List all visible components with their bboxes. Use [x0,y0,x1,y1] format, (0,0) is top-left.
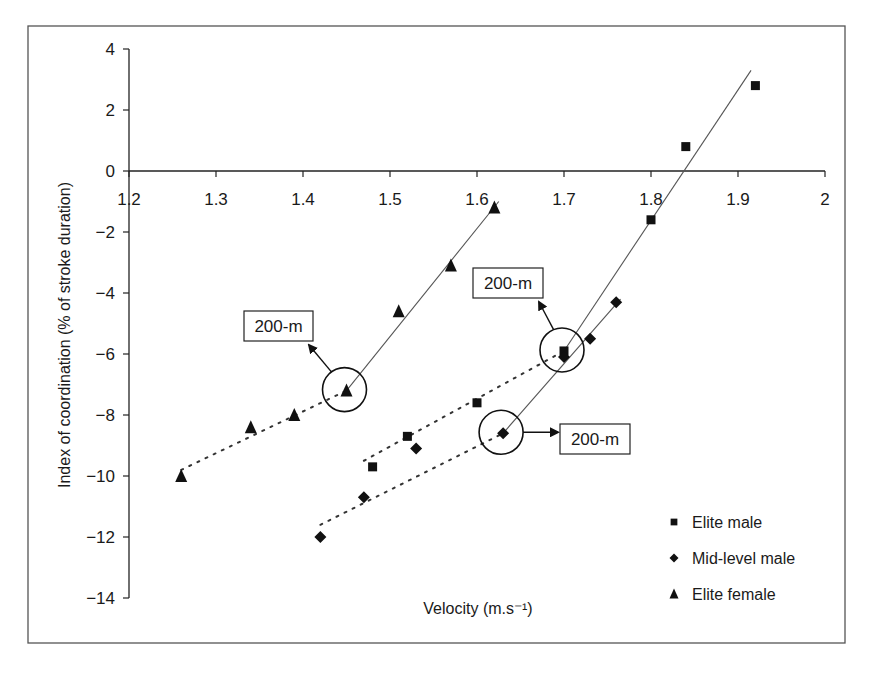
trend-line-dotted [181,391,346,470]
x-tick-label: 1.8 [639,190,663,209]
y-axis-title: Index of coordination (% of stroke durat… [56,182,73,488]
annotations: 200-m200-m200-m [244,268,630,454]
x-tick-label: 1.3 [204,190,228,209]
x-tick-label: 1.2 [117,190,141,209]
diamond-marker [410,443,422,455]
legend-label: Elite male [692,514,762,531]
square-marker [681,142,690,151]
y-tick-label: −14 [86,589,115,608]
triangle-marker [393,304,405,317]
y-tick-label: −8 [96,406,115,425]
diamond-marker [314,531,326,543]
trend-line-dotted [364,351,564,461]
diamond-marker [358,491,370,503]
triangle-marker [288,408,300,421]
y-tick-label: −4 [96,284,115,303]
annotation-arrow [539,302,554,330]
triangle-marker [175,469,187,482]
y-tick-label: −2 [96,223,115,242]
legend-triangle-icon [670,589,679,599]
diamond-marker [584,333,596,345]
triangle-marker [245,420,257,433]
x-tick-label: 1.5 [378,190,402,209]
chart: 420−2−4−6−8−10−12−141.21.31.41.51.61.71.… [0,0,869,676]
x-tick-label: 1.6 [465,190,489,209]
x-tick-label: 2 [820,190,829,209]
square-marker [368,462,377,471]
x-tick-label: 1.9 [726,190,750,209]
y-tick-label: −12 [86,528,115,547]
legend-diamond-icon [670,554,679,563]
y-tick-label: −10 [86,467,115,486]
legend-square-icon [671,519,678,526]
y-tick-label: 0 [106,162,115,181]
trend-line-solid [503,299,620,433]
y-tick-label: 2 [106,101,115,120]
legend-label: Mid-level male [692,550,795,567]
square-marker [403,432,412,441]
diamond-marker [610,296,622,308]
legend-label: Elite female [692,586,776,603]
square-marker [647,215,656,224]
x-axis-title: Velocity (m.s⁻¹) [423,600,532,617]
y-tick-label: 4 [106,40,115,59]
square-marker [751,81,760,90]
x-tick-label: 1.7 [552,190,576,209]
trend-line-solid [564,70,751,351]
legend: Elite maleMid-level maleElite female [670,514,796,603]
annotation-label: 200-m [254,317,302,336]
square-marker [473,398,482,407]
y-tick-label: −6 [96,345,115,364]
x-tick-label: 1.4 [291,190,315,209]
annotation-label: 200-m [484,274,532,293]
annotation-arrow [309,345,331,372]
triangle-marker [445,259,457,272]
trend-lines [181,70,751,524]
annotation-label: 200-m [571,430,619,449]
